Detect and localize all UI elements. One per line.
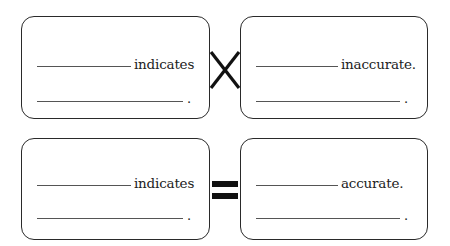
- top-right-box: inaccurate. .: [240, 16, 428, 119]
- fill-in-blank[interactable]: [37, 101, 183, 102]
- sentence-line-2: .: [37, 209, 191, 223]
- fill-in-blank[interactable]: [256, 218, 400, 219]
- end-punctuation: .: [187, 209, 191, 223]
- fill-in-blank[interactable]: [37, 66, 131, 67]
- end-punctuation: .: [404, 92, 408, 106]
- sentence-line-1: indicates: [37, 176, 194, 190]
- cross-icon: [209, 50, 241, 90]
- fill-in-blank[interactable]: [256, 101, 400, 102]
- bottom-left-box: indicates .: [21, 138, 210, 240]
- fill-in-blank[interactable]: [37, 218, 183, 219]
- end-punctuation: .: [187, 92, 191, 106]
- sentence-line-2: .: [37, 92, 191, 106]
- fill-in-blank[interactable]: [256, 66, 338, 67]
- bottom-right-box: accurate. .: [240, 138, 428, 240]
- sentence-line-2: .: [256, 92, 408, 106]
- fill-in-blank[interactable]: [37, 185, 131, 186]
- sentence-word: indicates: [134, 176, 194, 190]
- sentence-word: accurate.: [341, 176, 403, 190]
- sentence-line-1: accurate.: [256, 176, 403, 190]
- end-punctuation: .: [404, 209, 408, 223]
- sentence-word: inaccurate.: [341, 57, 416, 71]
- sentence-line-1: indicates: [37, 57, 194, 71]
- fill-in-blank[interactable]: [256, 185, 338, 186]
- sentence-line-1: inaccurate.: [256, 57, 416, 71]
- equals-icon: [212, 181, 238, 201]
- top-left-box: indicates .: [21, 16, 210, 119]
- sentence-line-2: .: [256, 209, 408, 223]
- sentence-word: indicates: [134, 57, 194, 71]
